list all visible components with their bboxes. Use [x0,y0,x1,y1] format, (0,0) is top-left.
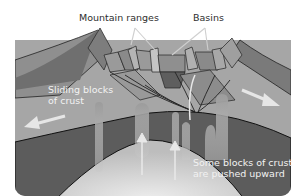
mountain-ranges-label: Mountain ranges [79,12,159,23]
pushed-upward-label: Some blocks of crust are pushed upward [193,157,293,179]
sliding-blocks-label: Sliding blocks of crust [48,84,118,106]
basins-label: Basins [193,12,224,23]
